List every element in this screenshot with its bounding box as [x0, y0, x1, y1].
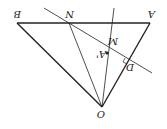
label-M: M — [107, 36, 119, 47]
label-N: N — [64, 9, 75, 20]
label-A: A — [148, 9, 156, 20]
line-ND — [44, 8, 152, 73]
segment-ON — [69, 23, 102, 107]
label-D: D — [126, 62, 135, 73]
diagram-canvas: B N A O M A' D — [0, 0, 167, 129]
label-O: O — [97, 109, 105, 120]
label-A-prime: A' — [96, 49, 107, 60]
geometry-diagram: B N A O M A' D — [0, 0, 167, 129]
label-B: B — [14, 9, 22, 20]
